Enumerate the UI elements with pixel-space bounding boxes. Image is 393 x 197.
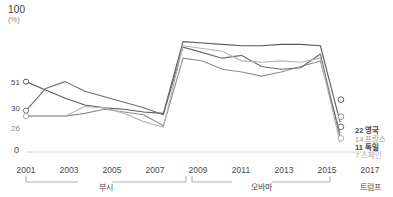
era-label-bush: 부시 [76, 181, 136, 192]
series-line-프랑스 [26, 58, 340, 133]
legend-entry-spain: 7 스페인 [355, 149, 382, 160]
series-line-영국 [26, 42, 340, 122]
era-label-trump: 트럼프 [340, 181, 393, 192]
x-tick-2009: 2009 [178, 165, 218, 175]
start-markers-group [23, 79, 28, 119]
x-tick-2011: 2011 [221, 165, 261, 175]
series-line-스페인 [26, 46, 340, 143]
x-tick-2017: 2017 [350, 165, 390, 175]
x-tick-2013: 2013 [264, 165, 304, 175]
x-tick-2015: 2015 [307, 165, 347, 175]
start-marker-영국 [23, 79, 28, 84]
line-chart: 100 (%) 51 30 26 0 2001 2003 2005 2007 2… [0, 0, 393, 197]
series-paths-group [26, 42, 340, 143]
end-marker-스페인 [338, 136, 344, 142]
end-marker-영국 [338, 97, 344, 103]
x-tick-2001: 2001 [6, 165, 46, 175]
era-label-obama: 오바마 [231, 181, 291, 192]
x-tick-2007: 2007 [135, 165, 175, 175]
start-marker-독일 [23, 108, 28, 113]
start-marker-스페인 [23, 114, 28, 119]
x-tick-2003: 2003 [49, 165, 89, 175]
end-marker-독일 [338, 124, 344, 130]
x-tick-2005: 2005 [92, 165, 132, 175]
end-marker-프랑스 [338, 114, 344, 120]
series-line-독일 [26, 47, 340, 137]
